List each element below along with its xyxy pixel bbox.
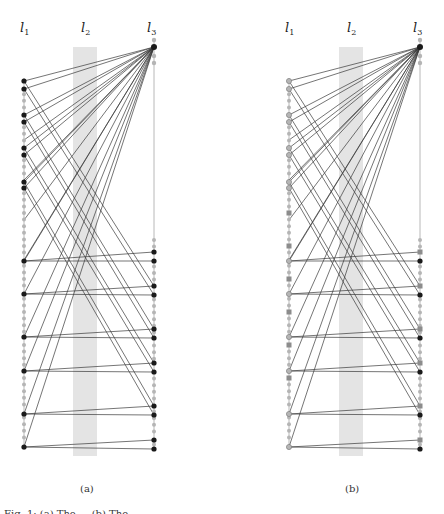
node <box>417 369 422 374</box>
node-gray <box>152 297 156 301</box>
node-gray <box>418 344 422 348</box>
node <box>286 368 291 373</box>
node-gray <box>152 311 156 315</box>
node-gray <box>287 317 291 321</box>
node-gray <box>418 429 422 433</box>
node <box>286 258 291 263</box>
node <box>21 258 26 263</box>
node-gray <box>287 350 291 354</box>
node-gray <box>418 383 422 387</box>
layer-label-l1: l1 <box>285 20 294 37</box>
node-gray <box>152 61 156 65</box>
node-square <box>287 376 292 381</box>
node-gray <box>152 271 156 275</box>
node-gray <box>287 132 291 136</box>
node <box>21 334 26 339</box>
panel-b: l1 l2 l3 (b) <box>285 20 423 494</box>
node <box>286 152 291 157</box>
node-gray <box>152 383 156 387</box>
node-gray <box>22 310 26 314</box>
node-gray <box>22 323 26 327</box>
node <box>286 86 291 91</box>
node-square <box>287 211 292 216</box>
node <box>151 412 156 417</box>
node-gray <box>22 92 26 96</box>
node-gray <box>22 330 26 334</box>
node <box>21 86 26 91</box>
node-gray <box>287 297 291 301</box>
node-gray <box>418 390 422 394</box>
node-gray <box>287 231 291 235</box>
node-gray <box>287 218 291 222</box>
node <box>286 78 291 83</box>
node <box>151 283 156 288</box>
node <box>151 258 156 263</box>
node-gray <box>22 270 26 274</box>
node-gray <box>22 191 26 195</box>
hub-node <box>151 44 157 50</box>
node-gray <box>152 396 156 400</box>
node <box>417 446 422 451</box>
node-gray <box>287 191 291 195</box>
node-gray <box>418 357 422 361</box>
node-gray <box>22 211 26 215</box>
node-gray <box>152 38 156 42</box>
panel-label-b: (b) <box>345 483 359 494</box>
node-square <box>287 343 292 348</box>
node-gray <box>152 357 156 361</box>
node-gray <box>22 251 26 255</box>
node <box>21 119 26 124</box>
node <box>286 119 291 124</box>
node-gray <box>152 350 156 354</box>
node-gray <box>152 54 156 58</box>
node-gray <box>418 443 422 447</box>
node-gray <box>22 99 26 103</box>
node-gray <box>287 251 291 255</box>
node-gray <box>22 297 26 301</box>
node <box>21 368 26 373</box>
node-gray <box>152 429 156 433</box>
node-gray <box>287 264 291 268</box>
node-gray <box>22 264 26 268</box>
node <box>417 335 422 340</box>
node-gray <box>418 271 422 275</box>
node-gray <box>22 284 26 288</box>
node <box>151 446 156 451</box>
node <box>151 326 156 331</box>
node-gray <box>418 245 422 249</box>
node-gray <box>152 304 156 308</box>
node-gray <box>22 204 26 208</box>
node-gray <box>152 278 156 282</box>
layer-label-l3: l3 <box>147 20 156 37</box>
node-gray <box>22 125 26 129</box>
node-gray <box>287 356 291 360</box>
node-gray <box>152 238 156 242</box>
node <box>286 411 291 416</box>
node <box>151 249 156 254</box>
node-gray <box>418 297 422 301</box>
node <box>151 369 156 374</box>
node-gray <box>418 304 422 308</box>
node-gray <box>287 396 291 400</box>
node-gray <box>287 303 291 307</box>
node-gray <box>22 303 26 307</box>
node-gray <box>22 356 26 360</box>
node-gray <box>22 343 26 347</box>
node-gray <box>287 237 291 241</box>
node-gray <box>418 311 422 315</box>
node-square <box>418 250 423 255</box>
node-gray <box>22 158 26 162</box>
node-gray <box>152 264 156 268</box>
node-gray <box>287 99 291 103</box>
node-gray <box>287 204 291 208</box>
node <box>151 437 156 442</box>
node-gray <box>287 323 291 327</box>
node-square <box>418 284 423 289</box>
node-gray <box>287 435 291 439</box>
layer-label-l2: l2 <box>347 20 356 37</box>
node-square <box>287 310 292 315</box>
node-gray <box>287 402 291 406</box>
node-gray <box>22 231 26 235</box>
node-gray <box>152 443 156 447</box>
node-gray <box>287 224 291 228</box>
